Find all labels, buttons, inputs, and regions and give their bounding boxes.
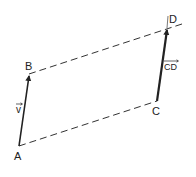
tick-d xyxy=(167,16,168,28)
vector-label-cd: CD xyxy=(164,62,177,72)
parallelogram-diagram: A B C D v CD xyxy=(0,0,196,177)
point-label-c: C xyxy=(152,105,160,117)
dashed-edge-ac xyxy=(19,101,157,146)
point-label-b: B xyxy=(25,60,32,72)
point-label-a: A xyxy=(14,150,22,162)
vector-label-v: v xyxy=(16,104,21,115)
point-label-d: D xyxy=(169,13,177,25)
